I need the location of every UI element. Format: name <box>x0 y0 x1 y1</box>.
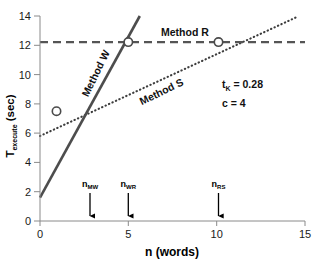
x-tick-label: 5 <box>125 228 131 240</box>
crossover-marker-wr <box>124 38 132 46</box>
threshold-label-n-rs-subscript: RS <box>217 184 225 190</box>
y-axis-title-unit: (sec) <box>4 94 16 124</box>
crossover-marker-rs <box>214 38 222 46</box>
y-tick-label: 14 <box>19 10 31 22</box>
x-tick-labels: 0 5 10 15 <box>37 228 311 240</box>
x-tick-label: 15 <box>299 228 311 240</box>
threshold-arrow-n-rs: nRS <box>212 179 226 216</box>
chart-canvas: 0 2 4 6 8 10 12 14 0 5 10 15 n (words) <box>0 0 320 262</box>
annotation-tk-rest: = 0.28 <box>231 78 264 90</box>
y-tick-label: 6 <box>25 127 31 139</box>
crossover-marker-mw <box>52 107 60 115</box>
threshold-label-n-rs: nRS <box>212 179 226 190</box>
threshold-label-n-wr-subscript: WR <box>126 184 137 190</box>
annotation-tk: tK = 0.28 <box>222 78 263 92</box>
y-tick-label: 2 <box>25 186 31 198</box>
x-tick-marks <box>40 221 305 226</box>
y-tick-label: 12 <box>19 39 31 51</box>
y-tick-label: 10 <box>19 69 31 81</box>
threshold-label-n-wr: nWR <box>121 179 137 190</box>
annotation-c-rest: = 4 <box>228 97 246 109</box>
annotation-c: c = 4 <box>222 97 246 109</box>
y-tick-label: 0 <box>25 215 31 227</box>
chart-figure: 0 2 4 6 8 10 12 14 0 5 10 15 n (words) <box>0 0 320 262</box>
threshold-arrow-n-wr: nWR <box>121 179 137 216</box>
y-axis-title-base: T <box>4 151 16 158</box>
x-tick-label: 10 <box>211 228 223 240</box>
y-axis-title: Texecute (sec) <box>4 94 18 157</box>
y-tick-label: 8 <box>25 98 31 110</box>
threshold-label-n-mw: nMW <box>82 179 98 190</box>
y-tick-label: 4 <box>25 156 31 168</box>
svg-text:Texecute (sec): Texecute (sec) <box>4 94 18 157</box>
y-axis-title-subscript: execute <box>11 124 18 150</box>
threshold-arrow-n-mw: nMW <box>82 179 98 216</box>
x-tick-label: 0 <box>37 228 43 240</box>
y-tick-labels: 0 2 4 6 8 10 12 14 <box>19 10 31 227</box>
series-label-method-r: Method R <box>161 26 209 38</box>
x-axis-title: n (words) <box>145 245 199 259</box>
threshold-label-n-mw-subscript: MW <box>87 184 98 190</box>
y-tick-marks <box>34 16 40 221</box>
